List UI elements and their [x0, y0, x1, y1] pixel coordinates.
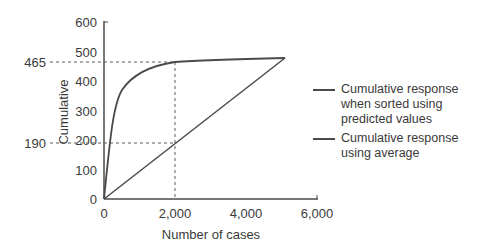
- y-tick-400: 400: [75, 74, 97, 89]
- x-axis-title: Number of cases: [162, 227, 261, 242]
- y-axis-title: Cumulative: [56, 79, 71, 144]
- y-tick-100: 100: [75, 163, 97, 178]
- legend-label-sorted: Cumulative response when sorted using pr…: [341, 82, 499, 127]
- legend-swatch-average: [313, 138, 335, 140]
- x-tick-0: 0: [100, 206, 107, 221]
- annotation-465: 465: [24, 55, 46, 70]
- x-tick-4000: 4,000: [230, 206, 263, 221]
- y-tick-500: 500: [75, 45, 97, 60]
- x-tick-2000: 2,000: [159, 206, 192, 221]
- y-tick-600: 600: [75, 15, 97, 30]
- x-tick-6000: 6,000: [301, 206, 334, 221]
- y-tick-0: 0: [90, 192, 97, 207]
- legend-swatch-sorted: [313, 89, 335, 91]
- x-tick-labels: 0 2,000 4,000 6,000: [100, 206, 333, 221]
- y-tick-200: 200: [75, 133, 97, 148]
- y-tick-labels: 0 100 200 300 400 500 600: [75, 15, 97, 207]
- annotation-190: 190: [24, 136, 46, 151]
- legend-label-average: Cumulative response using average: [341, 131, 499, 161]
- y-axis-ticks: [104, 22, 317, 199]
- y-tick-300: 300: [75, 104, 97, 119]
